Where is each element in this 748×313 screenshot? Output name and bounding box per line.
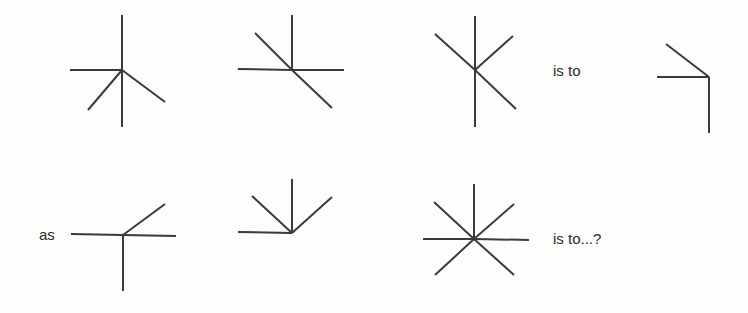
figure-arm	[88, 70, 122, 110]
figure-arm	[435, 239, 474, 275]
figure-arm	[434, 202, 474, 239]
figure-arm	[123, 204, 165, 235]
figure-arm	[474, 239, 529, 240]
figure-7	[423, 184, 529, 275]
figure-1	[70, 15, 165, 127]
figure-arm	[475, 36, 513, 70]
is-to-question-label: is to...?	[553, 230, 601, 248]
figure-arm	[292, 197, 332, 233]
figure-arm	[435, 34, 475, 70]
figure-arm	[475, 70, 516, 109]
analogy-puzzle: is to as is to...?	[0, 0, 748, 313]
figure-arm	[292, 70, 332, 108]
figure-5	[71, 204, 176, 291]
as-label: as	[39, 226, 55, 244]
figure-4	[657, 44, 709, 133]
figure-arm	[474, 239, 514, 275]
figure-arm	[123, 235, 176, 236]
figure-arm	[666, 44, 709, 77]
line-figures	[0, 0, 748, 313]
figure-6	[238, 179, 332, 233]
figure-2	[238, 15, 344, 108]
figure-arm	[122, 70, 165, 102]
is-to-label: is to	[553, 62, 581, 80]
figure-3	[435, 16, 516, 127]
figure-arm	[252, 196, 292, 233]
figure-arm	[474, 204, 514, 239]
figure-arm	[238, 232, 292, 233]
figure-arm	[71, 234, 123, 235]
figure-arm	[255, 33, 292, 70]
figure-arm	[238, 69, 292, 70]
